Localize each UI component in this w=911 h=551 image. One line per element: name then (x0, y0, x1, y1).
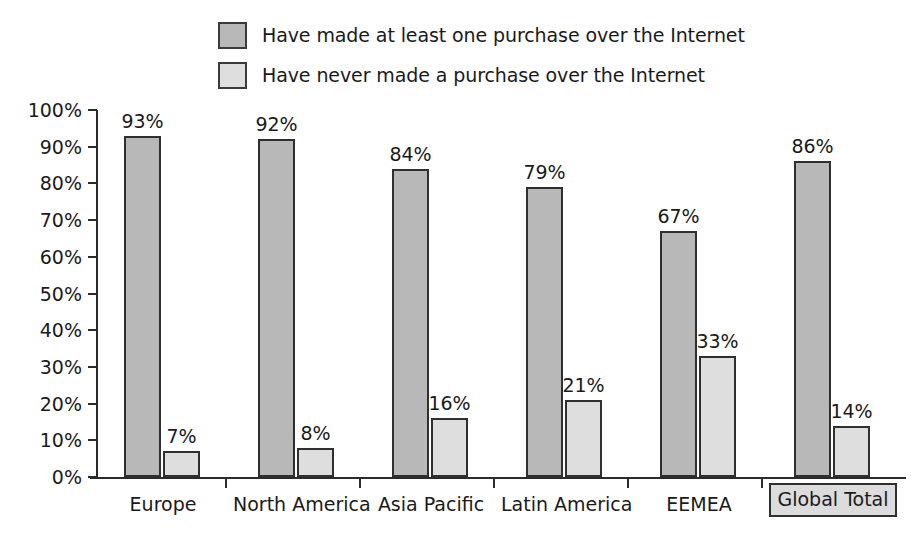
bar-never-purchase[interactable] (163, 451, 200, 477)
y-axis-tick (88, 403, 97, 405)
bar-made-purchase[interactable] (794, 161, 831, 477)
legend-label-never-purchase: Have never made a purchase over the Inte… (262, 66, 705, 85)
chart-legend: Have made at least one purchase over the… (218, 18, 745, 98)
bar-value-label: 21% (554, 376, 613, 395)
bar-never-purchase[interactable] (565, 400, 602, 477)
bar-made-purchase[interactable] (660, 231, 697, 477)
bar-never-purchase[interactable] (297, 448, 334, 477)
y-axis-tick-label: 70% (4, 211, 82, 230)
y-axis-tick-label: 10% (4, 431, 82, 450)
bar-value-label: 79% (515, 163, 574, 182)
bar-never-purchase[interactable] (833, 426, 870, 477)
bar-value-label: 67% (649, 207, 708, 226)
x-axis-category-label: Latin America (501, 487, 629, 514)
bar-made-purchase[interactable] (124, 136, 161, 477)
y-axis-tick-label: 50% (4, 284, 82, 303)
bar-value-label: 14% (822, 402, 881, 421)
caption-sliver (14, 541, 254, 551)
x-axis-line (90, 477, 906, 479)
y-axis-tick (88, 256, 97, 258)
x-axis-category-label: Europe (99, 487, 227, 514)
y-axis-tick-label: 30% (4, 357, 82, 376)
y-axis-tick-label: 40% (4, 321, 82, 340)
y-axis-tick (88, 219, 97, 221)
y-axis-tick-label: 20% (4, 394, 82, 413)
bar-value-label: 16% (420, 394, 479, 413)
bar-never-purchase[interactable] (431, 418, 468, 477)
y-axis-tick (88, 439, 97, 441)
x-axis-category-label: Global Total (769, 483, 897, 517)
y-axis-tick (88, 109, 97, 111)
y-axis-tick-label: 0% (4, 468, 82, 487)
legend-item-made-purchase: Have made at least one purchase over the… (218, 18, 745, 52)
x-axis-category-label: EEMEA (635, 487, 763, 514)
y-axis-tick (88, 329, 97, 331)
y-axis-tick-label: 100% (4, 101, 82, 120)
bar-value-label: 93% (113, 112, 172, 131)
legend-label-made-purchase: Have made at least one purchase over the… (262, 26, 745, 45)
y-axis-tick-label: 90% (4, 137, 82, 156)
bar-value-label: 8% (286, 424, 345, 443)
y-axis-tick (88, 293, 97, 295)
x-axis-category-label: North America (233, 487, 361, 514)
bar-made-purchase[interactable] (392, 169, 429, 477)
legend-item-never-purchase: Have never made a purchase over the Inte… (218, 58, 745, 92)
legend-swatch-dark (218, 22, 247, 49)
bar-value-label: 86% (783, 137, 842, 156)
bar-value-label: 33% (688, 332, 747, 351)
y-axis-tick (88, 476, 97, 478)
legend-swatch-light (218, 62, 247, 89)
y-axis-tick (88, 182, 97, 184)
y-axis-tick (88, 146, 97, 148)
bar-value-label: 92% (247, 115, 306, 134)
chart-plot-area: 93%7%92%8%84%16%79%21%67%33%86%14% (97, 110, 903, 477)
y-axis-tick-label: 60% (4, 247, 82, 266)
bar-value-label: 7% (152, 427, 211, 446)
y-axis-tick-label: 80% (4, 174, 82, 193)
y-axis-tick (88, 366, 97, 368)
x-axis-category-label: Asia Pacific (367, 487, 495, 514)
bar-made-purchase[interactable] (526, 187, 563, 477)
bar-value-label: 84% (381, 145, 440, 164)
bar-never-purchase[interactable] (699, 356, 736, 477)
